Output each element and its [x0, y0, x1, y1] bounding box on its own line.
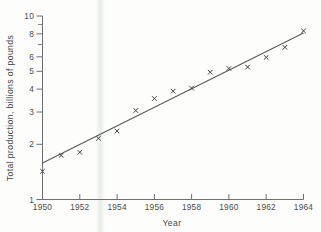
- y-tick-label-3: 3: [29, 107, 34, 117]
- x-tick-label-1958: 1958: [182, 202, 201, 212]
- data-markers-group: [40, 29, 306, 174]
- y-tick-labels-group: 1 2 3 4 5 6 8 10: [24, 11, 34, 205]
- data-point-1953: [96, 136, 101, 141]
- y-tick-label-4: 4: [29, 84, 34, 94]
- x-tick-labels-group: 1950 1952 1954 1956 1958 1960 1962 1964: [33, 202, 313, 212]
- y-axis-title: Total production, billions of pounds: [5, 35, 15, 181]
- data-point-1954: [115, 129, 120, 134]
- y-tick-label-10: 10: [24, 11, 34, 21]
- data-point-1963: [283, 45, 288, 50]
- data-point-1964: [301, 29, 306, 34]
- fit-trend-line: [43, 33, 304, 163]
- data-point-1955: [134, 108, 139, 113]
- data-point-1959: [208, 70, 213, 75]
- x-ticks-group: [43, 194, 304, 200]
- x-axis-title: Year: [163, 218, 182, 228]
- chart-canvas: 1 2 3 4 5 6 8 10 1950 1952 1954 1956 195…: [0, 0, 321, 232]
- data-point-1956: [152, 96, 157, 101]
- x-tick-label-1952: 1952: [70, 202, 89, 212]
- x-tick-label-1960: 1960: [219, 202, 238, 212]
- chart-figure: 1 2 3 4 5 6 8 10 1950 1952 1954 1956 195…: [0, 0, 321, 232]
- y-tick-label-8: 8: [29, 29, 34, 39]
- data-point-1961: [245, 65, 250, 70]
- x-tick-label-1956: 1956: [145, 202, 164, 212]
- x-tick-label-1962: 1962: [257, 202, 276, 212]
- x-tick-label-1964: 1964: [294, 202, 313, 212]
- data-point-1962: [264, 55, 269, 60]
- data-point-1957: [171, 89, 176, 94]
- axes-group: [43, 16, 304, 200]
- x-tick-label-1950: 1950: [33, 202, 52, 212]
- x-tick-label-1954: 1954: [107, 202, 126, 212]
- data-point-1952: [78, 150, 83, 155]
- y-tick-label-5: 5: [29, 66, 34, 76]
- y-tick-label-6: 6: [29, 52, 34, 62]
- y-tick-label-2: 2: [29, 139, 34, 149]
